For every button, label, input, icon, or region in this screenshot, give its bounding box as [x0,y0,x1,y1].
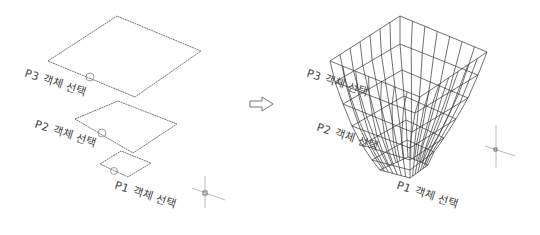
right-arrow-icon [250,97,273,111]
ucs-crosshair-left [192,176,225,208]
ucs-crosshair-right [485,125,515,168]
lofted-mesh [330,16,487,178]
profile-p1 [100,151,151,177]
loft-diagram: P3 객체 선택 P2 객체 선택 P1 객체 선택 P3 객체 선택 P2 객… [0,0,540,235]
